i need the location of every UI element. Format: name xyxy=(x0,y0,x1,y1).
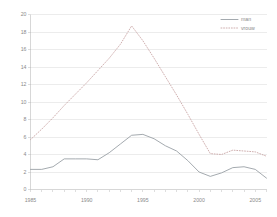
y-tick-label: 8 xyxy=(24,116,27,122)
y-axis-tick-labels: 02468101214161820 xyxy=(21,11,27,192)
y-tick-label: 6 xyxy=(24,134,27,140)
series-line-man xyxy=(31,134,267,178)
legend-label-man: man xyxy=(241,16,251,22)
x-tick-label: 1990 xyxy=(81,197,93,203)
y-tick-label: 2 xyxy=(24,169,27,175)
y-tick-label: 14 xyxy=(21,64,27,70)
chart-legend: manvrouw xyxy=(221,16,255,31)
line-chart: 02468101214161820 19851990199520002005 m… xyxy=(0,0,277,217)
y-tick-label: 20 xyxy=(21,11,27,17)
y-tick-label: 18 xyxy=(21,29,27,35)
x-tick-label: 2005 xyxy=(249,197,261,203)
x-axis-ticks xyxy=(31,190,267,193)
x-tick-label: 1985 xyxy=(25,197,37,203)
x-axis-tick-labels: 19851990199520002005 xyxy=(25,197,261,203)
x-tick-label: 2000 xyxy=(193,197,205,203)
y-tick-label: 12 xyxy=(21,81,27,87)
y-tick-label: 4 xyxy=(24,151,27,157)
y-tick-label: 10 xyxy=(21,99,27,105)
plot-gridlines xyxy=(31,15,267,173)
x-tick-label: 1995 xyxy=(137,197,149,203)
y-tick-label: 0 xyxy=(24,186,27,192)
y-axis-ticks xyxy=(28,15,31,190)
legend-label-vrouw: vrouw xyxy=(241,25,255,31)
y-tick-label: 16 xyxy=(21,46,27,52)
